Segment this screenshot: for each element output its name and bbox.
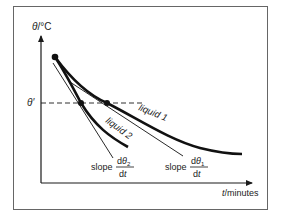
svg-text:slope: slope	[91, 162, 113, 172]
svg-text:dt: dt	[193, 169, 201, 179]
slope-label-liquid-2: slope dθ2 dt	[91, 156, 134, 179]
start-point	[52, 54, 59, 61]
liquid-2-label: liquid 2	[104, 115, 135, 142]
liquid-1-theta-prime-point	[104, 100, 110, 106]
x-axis-label: t/minutes	[222, 188, 259, 198]
svg-text:slope: slope	[165, 162, 187, 172]
svg-text:dt: dt	[119, 169, 127, 179]
liquid-1-label: liquid 1	[137, 102, 169, 123]
theta-prime-label: θ′	[27, 97, 35, 108]
svg-text:dθ2: dθ2	[117, 156, 131, 167]
slope-label-liquid-1: slope dθ1 dt	[165, 156, 208, 179]
y-axis-label: θ/°C	[32, 21, 51, 32]
svg-text:dθ1: dθ1	[191, 156, 205, 167]
liquid-2-theta-prime-point	[78, 100, 84, 106]
tangent-liquid-2	[53, 63, 113, 158]
cooling-curves-diagram: θ/°C t/minutes θ′ liquid 1 liquid 2 slop…	[0, 0, 283, 224]
